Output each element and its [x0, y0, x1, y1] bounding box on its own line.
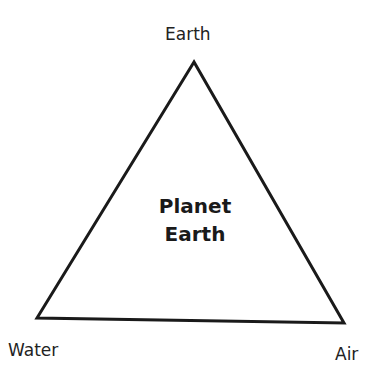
center-label-line2: Earth: [140, 220, 250, 248]
center-label-line1: Planet: [140, 192, 250, 220]
vertex-label-bottom-right: Air: [335, 344, 358, 364]
diagram-canvas: Earth Water Air Planet Earth: [0, 0, 382, 374]
center-label: Planet Earth: [140, 192, 250, 248]
vertex-label-top: Earth: [165, 24, 211, 44]
triangle-shape: [0, 0, 382, 374]
vertex-label-bottom-left: Water: [8, 340, 58, 360]
